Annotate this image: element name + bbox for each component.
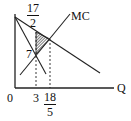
diagram-canvas xyxy=(0,0,131,121)
origin-label: 0 xyxy=(7,92,13,104)
q-competitive-label: 18 5 xyxy=(44,91,56,118)
x-axis-label: Q xyxy=(117,82,126,94)
price-mr-mc-label: 7 xyxy=(26,48,32,60)
q-competitive-numerator: 18 xyxy=(44,91,56,103)
q-competitive-denominator: 5 xyxy=(47,106,53,118)
mc-label: MC xyxy=(71,10,90,22)
deadweight-loss-area xyxy=(36,32,50,54)
price-top-denominator: 2 xyxy=(30,17,36,29)
q-monopoly-label: 3 xyxy=(33,92,39,104)
price-top-numerator: 17 xyxy=(27,2,39,14)
price-top-label: 17 2 xyxy=(27,2,39,29)
